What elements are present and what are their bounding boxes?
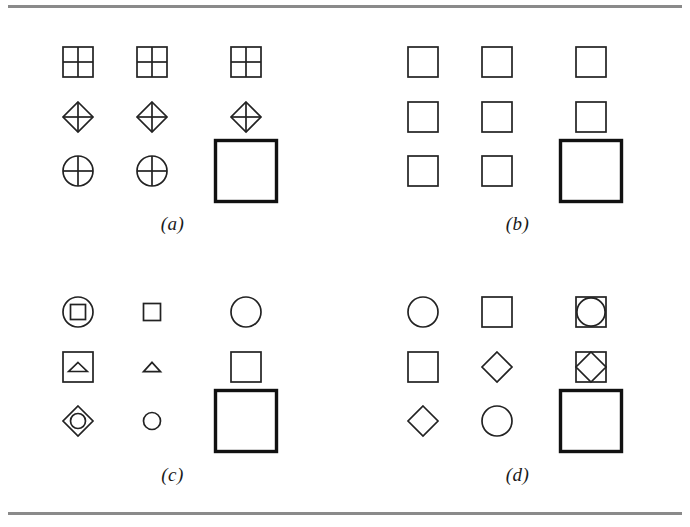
shape-cell-c-r1c1 [48,284,108,340]
square-icon [480,154,514,188]
shape-cell-b-r2c1 [393,89,453,145]
shape-cell-c-r2c2 [122,339,182,395]
panel-d-label: (d) [345,464,690,486]
circle-icon [480,404,514,438]
shape-cell-a-r1c1 [48,34,108,90]
bottom-rule [8,512,682,515]
shape-cell-c-r2c1 [48,339,108,395]
square-icon [406,350,440,384]
shape-cell-d-r3c3 [561,393,621,449]
square-icon [229,350,263,384]
panel-b: (b) [345,18,690,258]
square-icon [406,100,440,134]
shape-cell-a-r1c2 [122,34,182,90]
shape-cell-d-r3c2 [467,393,527,449]
shape-cell-a-r3c2 [122,143,182,199]
diamond-crossed-icon [61,100,95,134]
panel-a: (a) [0,18,345,258]
shape-cell-d-r2c1 [393,339,453,395]
square-icon [406,154,440,188]
panel-c: (c) [0,268,345,508]
panel-b-label: (b) [345,213,690,235]
circle-icon [142,411,163,432]
square-icon [142,302,163,323]
shape-cell-b-r3c2 [467,143,527,199]
circle-crossed-icon [135,154,169,188]
square-icon [558,388,625,455]
shape-cell-a-r3c1 [48,143,108,199]
diamond-crossed-icon [135,100,169,134]
square-icon [213,388,280,455]
triangle-flat-icon [142,357,163,378]
shape-cell-b-r1c1 [393,34,453,90]
square-icon [480,100,514,134]
shape-cell-d-r3c1 [393,393,453,449]
shape-cell-d-r1c2 [467,284,527,340]
shape-cell-c-r1c3 [216,284,276,340]
shape-cell-c-r3c3 [216,393,276,449]
top-rule [8,5,682,8]
diamond-icon [406,404,440,438]
square-containing-circle-icon [574,295,608,329]
shape-cell-c-r3c1 [48,393,108,449]
shape-cell-c-r3c2 [122,393,182,449]
shape-cell-a-r1c3 [216,34,276,90]
panel-a-label: (a) [0,213,345,235]
figure-canvas: (a) (b) (c) (d) [0,0,690,527]
square-icon [558,138,625,205]
shape-cell-a-r3c3 [216,143,276,199]
circle-icon [406,295,440,329]
shape-cell-d-r2c2 [467,339,527,395]
square-containing-diamond-icon [574,350,608,384]
square-containing-triangle-icon [61,350,95,384]
shape-cell-b-r2c2 [467,89,527,145]
circle-crossed-icon [61,154,95,188]
panel-c-label: (c) [0,464,345,486]
circle-containing-square-icon [61,295,95,329]
shape-cell-b-r1c3 [561,34,621,90]
diamond-containing-circle-icon [61,404,95,438]
shape-cell-a-r2c2 [122,89,182,145]
square-icon [574,100,608,134]
shape-cell-b-r3c1 [393,143,453,199]
shape-cell-a-r2c1 [48,89,108,145]
shape-cell-d-r1c3 [561,284,621,340]
shape-cell-c-r1c2 [122,284,182,340]
shape-cell-b-r3c3 [561,143,621,199]
shape-cell-b-r1c2 [467,34,527,90]
square-icon [480,295,514,329]
circle-icon [229,295,263,329]
shape-cell-d-r1c1 [393,284,453,340]
square-quartered-icon [61,45,95,79]
square-icon [480,45,514,79]
square-quartered-icon [135,45,169,79]
diamond-icon [480,350,514,384]
panel-d: (d) [345,268,690,508]
square-icon [406,45,440,79]
diamond-crossed-icon [229,100,263,134]
square-quartered-icon [229,45,263,79]
square-icon [574,45,608,79]
square-icon [213,138,280,205]
